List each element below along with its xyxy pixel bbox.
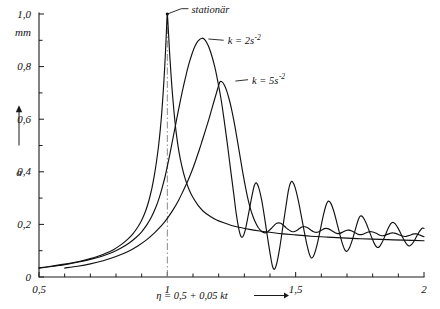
y-tick-label: 0 bbox=[26, 271, 32, 283]
k2-label-exponent: -2 bbox=[254, 33, 260, 42]
y-tick-label: 1,0 bbox=[17, 8, 31, 20]
stationaer-leader-line bbox=[167, 9, 188, 14]
k5-label-exponent: -2 bbox=[279, 72, 285, 81]
resonance-chart: 1,00,80,60,40,200,511,52 stationärk = 2s… bbox=[0, 0, 440, 309]
axis-lines bbox=[39, 13, 424, 277]
x-axis-title: η = 0,5 + 0,05 kt bbox=[156, 290, 229, 301]
k5-leader-line bbox=[235, 80, 248, 81]
figure-root: 1,00,80,60,40,200,511,52 stationärk = 2s… bbox=[0, 0, 440, 309]
y-axis-unit-label: mm bbox=[15, 26, 31, 38]
k5-label: k = 5s bbox=[252, 75, 278, 86]
axis-labels-group: mmaη = 0,5 + 0,05 kt bbox=[15, 26, 289, 301]
curve-stationaer bbox=[39, 14, 424, 268]
k2-leader-line bbox=[208, 39, 223, 40]
x-tick-label: 1,5 bbox=[289, 283, 303, 295]
y-tick-label: 0,2 bbox=[17, 218, 31, 230]
y-axis-arrow-head bbox=[16, 105, 22, 112]
curves-group bbox=[39, 14, 424, 269]
x-tick-label: 0,5 bbox=[32, 283, 46, 295]
k2-label: k = 2s bbox=[228, 35, 254, 46]
curve-k5 bbox=[65, 81, 424, 268]
stationaer-peak-marker bbox=[166, 12, 169, 15]
curve-k2 bbox=[39, 38, 424, 269]
x-tick-label: 2 bbox=[421, 283, 427, 295]
y-tick-label: 0,8 bbox=[17, 60, 31, 72]
axes-group: 1,00,80,60,40,200,511,52 bbox=[17, 8, 427, 295]
stationaer-label: stationär bbox=[191, 4, 230, 15]
y-axis-name: a bbox=[16, 166, 22, 178]
annotations-group: stationärk = 2s-2k = 5s-2 bbox=[166, 4, 286, 86]
